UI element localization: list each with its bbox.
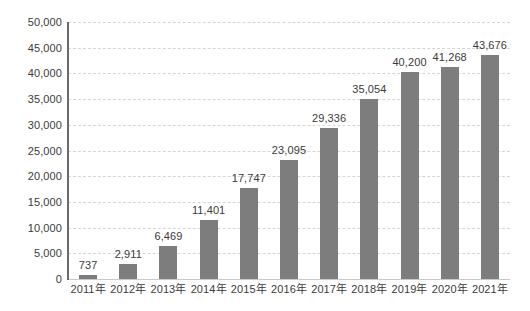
y-tick-label: 50,000 (0, 17, 62, 28)
bar (119, 264, 137, 279)
bar (240, 188, 258, 279)
y-tick-label: 10,000 (0, 223, 62, 234)
bar-value-label: 737 (79, 260, 98, 271)
y-axis-labels: 50,00045,00040,00035,00030,00025,00020,0… (0, 0, 62, 311)
bar-group: 43,676 (470, 22, 510, 279)
bar-group: 23,095 (269, 22, 309, 279)
bar-value-label: 35,054 (352, 84, 386, 95)
bar-group: 17,747 (229, 22, 269, 279)
bar-group: 737 (68, 22, 108, 279)
x-tick-label: 2012年 (110, 284, 146, 295)
bar-value-label: 6,469 (154, 231, 182, 242)
x-tick-label: 2014年 (191, 284, 227, 295)
bar (320, 128, 338, 279)
bar (481, 55, 499, 279)
x-tick-label: 2018年 (351, 284, 387, 295)
bar (360, 99, 378, 279)
bar-group: 41,268 (430, 22, 470, 279)
y-tick-label: 0 (0, 274, 62, 285)
y-tick-label: 40,000 (0, 68, 62, 79)
bar (200, 220, 218, 279)
bar-value-label: 43,676 (473, 40, 507, 51)
y-tick-label: 5,000 (0, 248, 62, 259)
y-tick-label: 35,000 (0, 94, 62, 105)
x-tick-label: 2017年 (311, 284, 347, 295)
x-tick-label: 2013年 (150, 284, 186, 295)
bars-layer: 7372,9116,46911,40117,74723,09529,33635,… (68, 22, 510, 279)
x-tick-label: 2016年 (271, 284, 307, 295)
bar-group: 40,200 (389, 22, 429, 279)
y-tick-label: 25,000 (0, 146, 62, 157)
bar-value-label: 40,200 (392, 57, 426, 68)
bar-group: 35,054 (349, 22, 389, 279)
bar (280, 160, 298, 279)
bar-value-label: 11,401 (192, 205, 225, 216)
x-tick-label: 2020年 (432, 284, 468, 295)
bar-value-label: 29,336 (312, 113, 346, 124)
bar (159, 246, 177, 279)
axis-baseline (68, 279, 510, 280)
x-axis-labels: 2011年2012年2013年2014年2015年2016年2017年2018年… (68, 284, 510, 304)
bar (79, 275, 97, 279)
y-tick-label: 20,000 (0, 171, 62, 182)
bar-group: 29,336 (309, 22, 349, 279)
bar-value-label: 17,747 (232, 173, 266, 184)
bar-value-label: 41,268 (433, 52, 467, 63)
bar (441, 67, 459, 279)
x-tick-label: 2019年 (392, 284, 428, 295)
x-tick-label: 2021年 (472, 284, 508, 295)
bar (401, 72, 419, 279)
bar-value-label: 23,095 (272, 145, 306, 156)
bar-chart: 50,00045,00040,00035,00030,00025,00020,0… (0, 0, 530, 311)
bar-group: 6,469 (148, 22, 188, 279)
y-tick-label: 15,000 (0, 197, 62, 208)
x-tick-label: 2011年 (71, 284, 106, 295)
bar-group: 2,911 (108, 22, 148, 279)
bar-value-label: 2,911 (115, 249, 142, 260)
x-tick-label: 2015年 (231, 284, 267, 295)
y-tick-label: 45,000 (0, 43, 62, 54)
y-tick-label: 30,000 (0, 120, 62, 131)
bar-group: 11,401 (189, 22, 229, 279)
